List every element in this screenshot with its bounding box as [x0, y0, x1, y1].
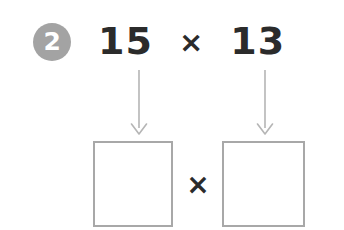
arrow-right-factor-icon — [254, 70, 276, 136]
step-number-badge: 2 — [33, 23, 71, 61]
right-answer-box[interactable] — [222, 141, 305, 227]
left-answer-box[interactable] — [93, 141, 173, 227]
worksheet-canvas: 2 15 × 13 × — [0, 0, 344, 230]
multiplication-expression: 15 × 13 — [98, 19, 285, 63]
arrow-left-factor-icon — [128, 70, 150, 136]
expression-right-factor: 13 — [230, 22, 285, 60]
answer-row-multiply-operator: × — [184, 168, 212, 202]
expression-left-factor: 15 — [98, 22, 153, 60]
step-number-label: 2 — [44, 29, 61, 56]
expression-multiply-operator: × — [179, 28, 204, 57]
